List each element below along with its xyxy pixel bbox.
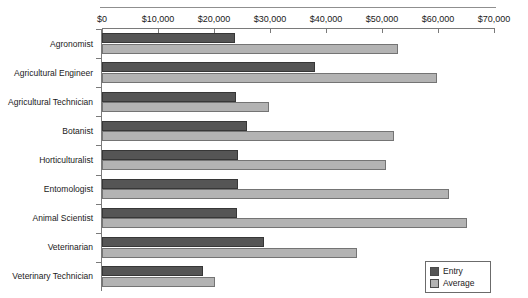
category-label: Agricultural Engineer <box>14 68 93 78</box>
x-tick-label: $0 <box>97 14 107 25</box>
x-tick-mark <box>494 28 495 33</box>
bar-average <box>102 189 449 199</box>
title-divider <box>100 7 496 8</box>
bar-average <box>102 160 386 170</box>
x-tick-label: $50,000 <box>366 14 399 25</box>
y-tick-mark <box>96 145 101 146</box>
y-tick-mark <box>96 29 101 30</box>
legend-item-average: Average <box>430 277 486 289</box>
x-tick-label: $20,000 <box>198 14 231 25</box>
bar-average <box>102 73 437 83</box>
y-tick-mark <box>96 87 101 88</box>
bar-entry <box>102 237 264 247</box>
legend-label-average: Average <box>443 278 475 288</box>
y-tick-mark <box>96 262 101 263</box>
y-tick-mark <box>96 58 101 59</box>
chart-title <box>100 0 400 5</box>
salary-bar-chart: $0$10,000$20,000$30,000$40,000$50,000$60… <box>0 0 528 298</box>
x-tick-label: $10,000 <box>142 14 175 25</box>
y-tick-mark <box>96 175 101 176</box>
legend-swatch-average-icon <box>430 279 439 288</box>
x-tick-label: $30,000 <box>254 14 287 25</box>
bar-average <box>102 218 467 228</box>
bar-entry <box>102 150 238 160</box>
plot-area <box>102 29 494 291</box>
x-tick-label: $40,000 <box>310 14 343 25</box>
bar-entry <box>102 121 247 131</box>
y-tick-mark <box>96 204 101 205</box>
bar-average <box>102 131 394 141</box>
y-tick-mark <box>96 116 101 117</box>
bar-average <box>102 248 357 258</box>
category-labels: AgronomistAgricultural EngineerAgricultu… <box>0 29 93 291</box>
chart-legend: Entry Average <box>425 261 491 293</box>
bar-entry <box>102 208 237 218</box>
category-label: Veterinary Technician <box>12 271 93 281</box>
bar-average <box>102 102 269 112</box>
bar-entry <box>102 33 235 43</box>
x-tick-label: $60,000 <box>422 14 455 25</box>
category-label: Agronomist <box>50 39 93 49</box>
x-tick-label: $70,000 <box>478 14 511 25</box>
x-axis-tick-labels: $0$10,000$20,000$30,000$40,000$50,000$60… <box>0 14 528 26</box>
category-label: Entomologist <box>44 184 93 194</box>
category-label: Botanist <box>62 126 93 136</box>
bar-average <box>102 44 398 54</box>
y-tick-mark <box>96 233 101 234</box>
category-label: Veterinarian <box>48 242 93 252</box>
legend-item-entry: Entry <box>430 265 486 277</box>
category-label: Animal Scientist <box>33 213 93 223</box>
bar-entry <box>102 266 203 276</box>
bar-entry <box>102 62 315 72</box>
category-label: Agricultural Technician <box>8 97 93 107</box>
bar-average <box>102 277 215 287</box>
bar-entry <box>102 92 236 102</box>
category-label: Horticulturalist <box>39 155 93 165</box>
legend-label-entry: Entry <box>443 266 463 276</box>
bar-entry <box>102 179 238 189</box>
legend-swatch-entry-icon <box>430 267 439 276</box>
